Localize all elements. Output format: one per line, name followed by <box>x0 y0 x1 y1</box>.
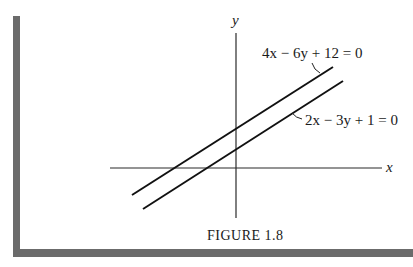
leader-lower <box>292 113 302 119</box>
y-axis-label: y <box>230 12 239 28</box>
line-upper <box>132 67 333 195</box>
coordinate-diagram: y x 4x − 6y + 12 = 0 2x − 3y + 1 = 0 FIG… <box>0 0 413 267</box>
figure-caption: FIGURE 1.8 <box>207 228 284 243</box>
equation-label-lower: 2x − 3y + 1 = 0 <box>305 112 398 128</box>
equation-label-upper: 4x − 6y + 12 = 0 <box>262 45 362 61</box>
line-lower <box>143 81 343 209</box>
x-axis-label: x <box>385 159 393 175</box>
leader-upper <box>312 63 320 73</box>
